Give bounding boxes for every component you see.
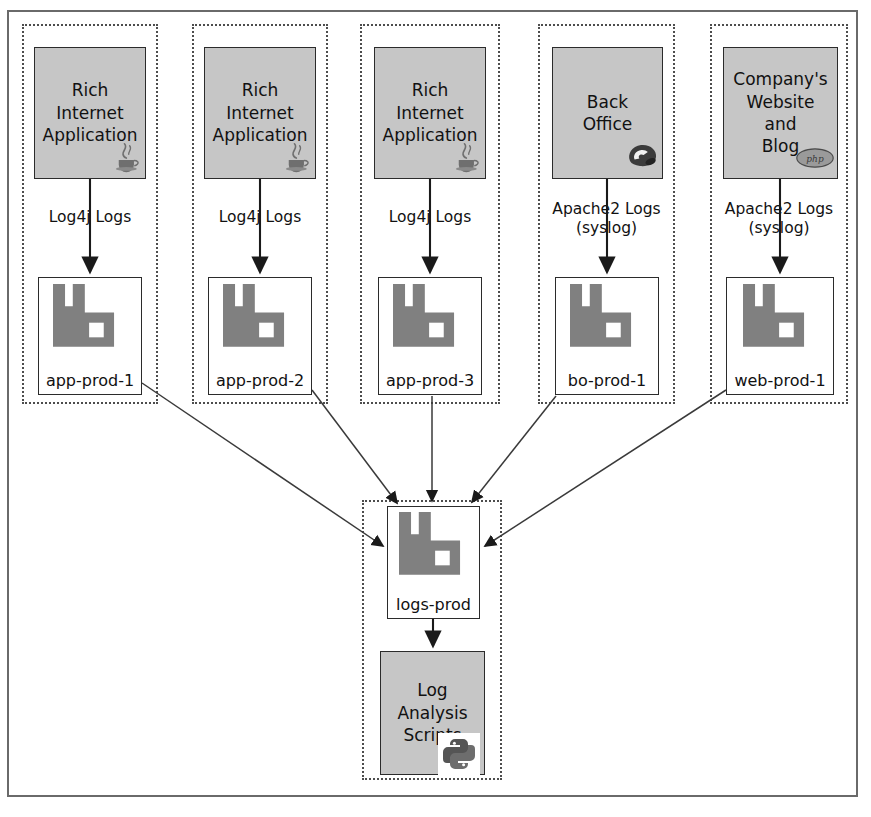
server-box-app-prod-2: app-prod-2: [208, 277, 312, 395]
edge-label-apache2-bo: Apache2 Logs (syslog): [540, 200, 673, 239]
app-box-rich-internet-application-3: Rich Internet Application: [374, 47, 486, 179]
server-box-bo-prod-1: bo-prod-1: [555, 277, 659, 395]
server-label: logs-prod: [388, 595, 479, 614]
server-label: bo-prod-1: [556, 371, 658, 390]
app-box-label: Rich Internet Application: [43, 79, 138, 146]
app-box-label: Rich Internet Application: [383, 79, 478, 146]
app-box-rich-internet-application-2: Rich Internet Application: [204, 47, 316, 179]
app-box-label: Company's Website and Blog: [733, 68, 827, 158]
edge-label-apache2-web: Apache2 Logs (syslog): [712, 200, 846, 239]
app-box-rich-internet-application-1: Rich Internet Application: [34, 47, 146, 179]
server-box-logs-prod: logs-prod: [387, 506, 480, 619]
server-label: app-prod-2: [209, 371, 311, 390]
app-box-back-office: Back Office: [552, 47, 663, 179]
app-box-label: Log Analysis Scripts: [397, 679, 467, 746]
app-box-label: Rich Internet Application: [213, 79, 308, 146]
server-label: app-prod-1: [39, 371, 141, 390]
edge-label-log4j-2: Log4j Logs: [194, 208, 326, 227]
edge-label-log4j-1: Log4j Logs: [24, 208, 156, 227]
server-label: app-prod-3: [379, 371, 481, 390]
diagram-canvas: Rich Internet Application Log4j Logs app…: [0, 0, 871, 817]
app-box-company-website-and-blog: Company's Website and Blog: [723, 47, 838, 179]
server-label: web-prod-1: [727, 371, 833, 390]
edge-label-log4j-3: Log4j Logs: [364, 208, 496, 227]
server-box-app-prod-3: app-prod-3: [378, 277, 482, 395]
app-box-label: Back Office: [583, 91, 633, 136]
app-box-log-analysis-scripts: Log Analysis Scripts: [380, 651, 485, 775]
server-box-web-prod-1: web-prod-1: [726, 277, 834, 395]
server-box-app-prod-1: app-prod-1: [38, 277, 142, 395]
